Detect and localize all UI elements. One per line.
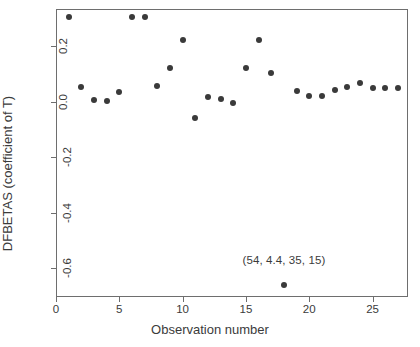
y-tick-mark (51, 213, 56, 214)
x-tick-mark (183, 297, 184, 302)
plot-annotation: (54, 4.4, 35, 15) (242, 254, 325, 266)
y-tick-label: 0.0 (57, 102, 69, 118)
y-tick-mark (51, 46, 56, 47)
x-axis-label: Observation number (0, 322, 420, 337)
y-tick-label: 0.2 (57, 46, 69, 62)
y-tick-label: -0.4 (61, 213, 73, 233)
x-tick-mark (373, 297, 374, 302)
plot-frame (56, 9, 408, 297)
y-tick-label: -0.2 (61, 157, 73, 177)
x-tick-label: 15 (240, 303, 253, 315)
y-tick-mark (51, 157, 56, 158)
x-tick-label: 0 (53, 303, 59, 315)
x-tick-mark (246, 297, 247, 302)
x-tick-mark (56, 297, 57, 302)
x-tick-label: 20 (303, 303, 316, 315)
x-tick-label: 5 (116, 303, 122, 315)
scatter-plot-figure: 0510152025 0.20.0-0.2-0.4-0.6 Observatio… (0, 0, 420, 347)
y-tick-label: -0.6 (61, 268, 73, 288)
x-tick-mark (309, 297, 310, 302)
x-tick-mark (119, 297, 120, 302)
x-tick-label: 10 (176, 303, 189, 315)
y-tick-mark (51, 102, 56, 103)
x-tick-label: 25 (366, 303, 379, 315)
y-tick-mark (51, 268, 56, 269)
y-axis-label: DFBETAS (coefficient of T) (0, 0, 18, 347)
